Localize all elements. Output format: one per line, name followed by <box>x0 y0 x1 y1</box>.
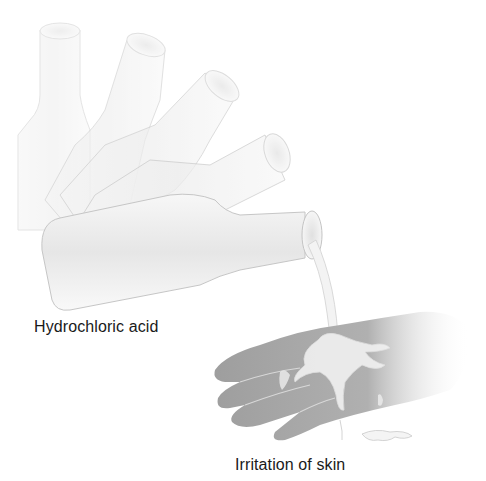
effect-label: Irritation of skin <box>235 456 345 474</box>
substance-label: Hydrochloric acid <box>34 318 158 336</box>
acid-puddle <box>340 420 412 441</box>
illustration-canvas <box>0 0 486 481</box>
hazard-illustration: Hydrochloric acid Irritation of skin <box>0 0 486 481</box>
